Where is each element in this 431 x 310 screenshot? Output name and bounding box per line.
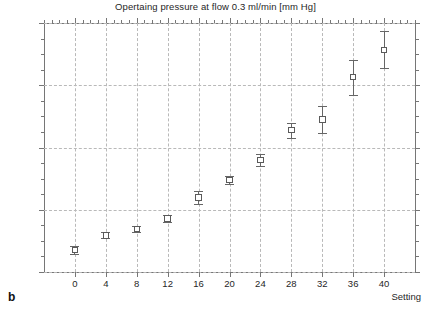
y-tick-major (39, 23, 44, 24)
x-tick-top (144, 20, 145, 24)
x-tick-top (90, 20, 91, 24)
x-tick-top (415, 20, 416, 24)
x-tick-major (75, 272, 76, 277)
x-tick-top (160, 20, 161, 24)
x-tick-major (260, 272, 261, 277)
y-tick-minor-right (415, 194, 419, 195)
x-tick-top (322, 18, 323, 23)
x-tick-top (268, 20, 269, 24)
gridline-vertical (291, 23, 292, 272)
x-tick-major (137, 272, 138, 277)
plot-area (44, 23, 415, 272)
x-tick-top (353, 18, 354, 23)
x-tick-top (152, 20, 153, 24)
x-tick-top (315, 20, 316, 24)
x-tick-top (276, 20, 277, 24)
error-bar-cap-upper (380, 31, 389, 32)
y-tick-minor (41, 132, 45, 133)
x-tick-major (384, 272, 385, 277)
x-tick-top (52, 20, 53, 24)
data-point-marker (319, 116, 326, 123)
y-tick-minor-right (415, 179, 419, 180)
data-point-marker (72, 247, 79, 254)
error-bar-cap-lower (380, 68, 389, 69)
x-tick-top (392, 20, 393, 24)
y-tick-major (39, 85, 44, 86)
x-tick-top (137, 18, 138, 23)
y-tick-major-right (415, 23, 420, 24)
y-tick-minor (41, 179, 45, 180)
error-bar-cap-upper (318, 106, 327, 107)
y-tick-major (39, 148, 44, 149)
x-tick-top (175, 20, 176, 24)
x-tick-top (199, 18, 200, 23)
gridline-horizontal (44, 85, 415, 86)
x-tick-top (106, 18, 107, 23)
gridline-vertical (75, 23, 76, 272)
error-bar-cap-lower (256, 166, 265, 167)
x-tick-top (384, 18, 385, 23)
y-tick-major-right (415, 148, 420, 149)
gridline-vertical (322, 23, 323, 272)
x-tick-label: 40 (364, 278, 404, 289)
x-tick-major (199, 272, 200, 277)
x-tick-top (338, 20, 339, 24)
error-bar-cap-upper (256, 154, 265, 155)
error-bar-cap-lower (349, 95, 358, 96)
x-tick-top (44, 20, 45, 24)
y-tick-minor-right (415, 101, 419, 102)
x-tick-top (206, 20, 207, 24)
x-tick-top (222, 20, 223, 24)
x-tick-top (291, 18, 292, 23)
y-tick-minor-right (415, 54, 419, 55)
data-point-marker (381, 47, 388, 54)
y-tick-major-right (415, 85, 420, 86)
y-tick-major (39, 272, 44, 273)
y-tick-minor (41, 54, 45, 55)
y-tick-minor (41, 241, 45, 242)
x-tick-top (67, 20, 68, 24)
panel-label: b (8, 290, 15, 304)
x-tick-top (253, 20, 254, 24)
gridline-vertical (260, 23, 261, 272)
error-bar-cap-lower (101, 238, 110, 239)
x-tick-top (407, 20, 408, 24)
x-tick-top (299, 20, 300, 24)
data-point-marker (195, 194, 202, 201)
error-bar-cap-lower (287, 138, 296, 139)
x-tick-top (59, 20, 60, 24)
data-point-marker (164, 215, 171, 222)
error-bar-cap-lower (70, 254, 79, 255)
x-axis-title: Setting (391, 291, 421, 302)
data-point-marker (134, 226, 141, 233)
x-tick-top (361, 20, 362, 24)
y-tick-major (39, 210, 44, 211)
x-tick-major (230, 272, 231, 277)
y-tick-minor (41, 39, 45, 40)
x-tick-top (307, 20, 308, 24)
y-tick-minor-right (415, 163, 419, 164)
x-tick-top (191, 20, 192, 24)
x-tick-top (400, 20, 401, 24)
y-tick-minor (41, 163, 45, 164)
x-tick-top (98, 20, 99, 24)
y-tick-minor (41, 101, 45, 102)
x-tick-top (260, 18, 261, 23)
y-tick-minor-right (415, 256, 419, 257)
y-tick-minor-right (415, 241, 419, 242)
y-tick-major-right (415, 272, 420, 273)
figure-panel-b: Opertaing pressure at flow 0.3 ml/min [m… (0, 0, 431, 310)
y-tick-minor-right (415, 116, 419, 117)
y-tick-minor (41, 70, 45, 71)
x-tick-top (121, 20, 122, 24)
y-tick-minor (41, 225, 45, 226)
gridline-vertical (230, 23, 231, 272)
error-bar-cap-lower (318, 133, 327, 134)
y-tick-minor-right (415, 39, 419, 40)
x-tick-top (114, 20, 115, 24)
error-bar-cap-upper (287, 123, 296, 124)
data-point-marker (103, 232, 110, 239)
x-tick-top (369, 20, 370, 24)
x-tick-top (237, 20, 238, 24)
gridline-horizontal (44, 148, 415, 149)
